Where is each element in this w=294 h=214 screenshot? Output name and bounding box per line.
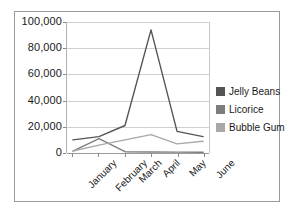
- y-axis-tick-label: 60,000: [28, 68, 62, 79]
- series-lines: [67, 22, 209, 153]
- x-axis-tick-mark: [98, 153, 99, 157]
- y-axis-tick-mark: [63, 153, 66, 154]
- x-axis-tick-mark: [178, 153, 179, 157]
- y-axis-tick-label: 0: [56, 147, 62, 158]
- legend-label: Licorice: [229, 105, 263, 115]
- legend-swatch-icon: [216, 87, 225, 96]
- y-axis-tick-label: 20,000: [28, 121, 62, 132]
- legend-swatch-icon: [216, 105, 225, 114]
- legend-item[interactable]: Jelly Beans: [216, 84, 278, 99]
- chart-canvas: 020,00040,00060,00080,000100,000 January…: [0, 0, 294, 214]
- x-axis-tick-mark: [72, 153, 73, 157]
- gridline: [67, 153, 209, 154]
- legend-label: Jelly Beans: [229, 87, 280, 97]
- legend-label: Bubble Gum: [229, 123, 285, 133]
- legend-item[interactable]: Licorice: [216, 102, 278, 117]
- legend-item[interactable]: Bubble Gum: [216, 120, 278, 135]
- y-axis-tick-label: 80,000: [28, 42, 62, 53]
- y-axis-tick-label: 100,000: [22, 16, 62, 27]
- series-line: [73, 30, 203, 140]
- series-line: [73, 139, 203, 153]
- x-axis-tick-mark: [125, 153, 126, 157]
- x-axis-tick-mark: [151, 153, 152, 157]
- x-axis-tick-mark: [204, 153, 205, 157]
- y-axis-tick-label: 40,000: [28, 95, 62, 106]
- legend-swatch-icon: [216, 123, 225, 132]
- chart-legend: Jelly BeansLicoriceBubble Gum: [216, 84, 278, 138]
- plot-area: [66, 22, 210, 153]
